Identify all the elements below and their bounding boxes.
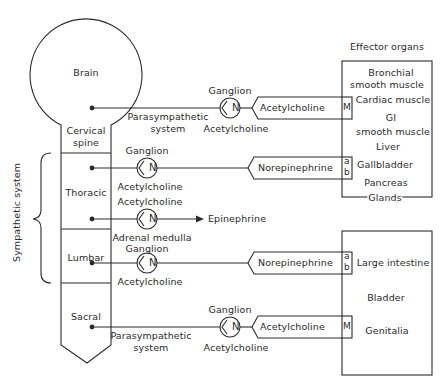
sacral-label: Sacral	[71, 312, 101, 322]
ganglion-label: Ganglion	[125, 244, 168, 254]
system-label: system	[134, 343, 169, 353]
ganglion-label: Ganglion	[208, 86, 251, 96]
arrow-icon	[196, 216, 204, 223]
receptor-m: M	[343, 103, 351, 112]
organ-gi-line2: smooth muscle	[356, 127, 430, 137]
cervical-label: Cervical	[66, 126, 105, 136]
organ-genitalia: Genitalia	[365, 326, 408, 336]
ganglion-n-symbol: N	[232, 322, 240, 332]
parasympathetic-label: Parasympathetic	[110, 331, 191, 341]
receptor-alpha: a	[344, 252, 350, 261]
lumbar-label: Lumbar	[68, 253, 105, 263]
adrenal-acetylcholine-label: Acetylcholine	[118, 197, 183, 207]
preganglionic-transmitter: Acetylcholine	[118, 277, 183, 287]
thoracic-label: Thoracic	[65, 188, 106, 198]
ganglion-n-symbol: N	[232, 103, 240, 113]
receptor-m: M	[343, 322, 351, 331]
preganglionic-transmitter: Acetylcholine	[204, 124, 269, 134]
receptor-beta: b	[344, 263, 350, 272]
sympathetic-brace	[33, 153, 51, 283]
organ-pancreas: Pancreas	[364, 178, 407, 188]
ganglion-label: Ganglion	[125, 146, 168, 156]
adrenal-medulla-label: Adrenal medulla	[112, 233, 191, 243]
organ-bladder: Bladder	[367, 293, 405, 303]
effector-organs-header: Effector organs	[350, 42, 424, 52]
ganglion-n-symbol: N	[149, 214, 157, 224]
organ-gi: GI	[386, 113, 396, 123]
receptor-beta: b	[344, 168, 350, 177]
preganglionic-transmitter: Acetylcholine	[204, 343, 269, 353]
organ-gallbladder: Gallbladder	[357, 160, 413, 170]
origin-dot	[90, 217, 95, 222]
origin-dot	[90, 325, 95, 330]
system-label: system	[151, 124, 186, 134]
receptor-alpha: a	[344, 157, 350, 166]
postganglionic-transmitter: Norepinephrine	[258, 258, 333, 268]
organ-large-intestine: Large intestine	[357, 258, 430, 268]
ganglion-label: Ganglion	[208, 305, 251, 315]
ganglion-n-symbol: N	[149, 163, 157, 173]
postganglionic-transmitter: Norepinephrine	[258, 163, 333, 173]
organ-liver: Liver	[376, 142, 400, 152]
origin-dot	[90, 106, 95, 111]
parasympathetic-label: Parasympathetic	[127, 112, 208, 122]
organ-glands: Glands	[367, 193, 402, 203]
postganglionic-transmitter: Acetylcholine	[260, 322, 325, 332]
preganglionic-transmitter: Acetylcholine	[118, 182, 183, 192]
brain-label: Brain	[73, 68, 98, 78]
organ-cardiac-muscle: Cardiac muscle	[356, 95, 430, 105]
organ-bronchial-line2: smooth muscle	[350, 80, 424, 90]
postganglionic-transmitter: Acetylcholine	[260, 103, 325, 113]
sympathetic-system-label: Sympathetic system	[12, 163, 22, 262]
ganglion-n-symbol: N	[149, 258, 157, 268]
effector-box-lower	[342, 231, 432, 375]
epinephrine-label: Epinephrine	[208, 214, 266, 224]
origin-dot	[90, 166, 95, 171]
organ-bronchial: Bronchial	[368, 68, 413, 78]
spine-label: spine	[73, 138, 99, 148]
